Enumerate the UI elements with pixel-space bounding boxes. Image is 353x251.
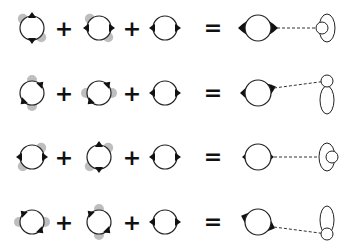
dark-lobe-icon	[149, 218, 155, 226]
equals-sign: =	[204, 211, 222, 233]
dark-lobe-icon	[109, 24, 115, 32]
orbital-term-3	[149, 81, 181, 105]
orbital-circle-icon	[87, 145, 111, 169]
orbital-term-3	[149, 16, 181, 40]
result-orbital	[242, 144, 274, 170]
result-orbital	[240, 80, 276, 106]
plus-sign: +	[123, 83, 141, 105]
dark-lobe-icon	[149, 24, 155, 32]
dark-lobe-icon	[149, 89, 155, 97]
orbital-term-2	[81, 81, 117, 105]
dark-lobe-icon	[28, 12, 36, 18]
orbital-circle-icon	[87, 16, 111, 40]
dark-lobe-icon	[175, 89, 181, 97]
plus-sign: +	[55, 83, 73, 105]
small-sphere-icon	[321, 75, 333, 87]
plus-sign: +	[55, 147, 73, 169]
orbital-term-1	[14, 210, 50, 234]
result-circle-icon	[245, 144, 271, 170]
orbital-term-1	[20, 75, 44, 111]
orbital-term-1	[18, 12, 46, 44]
plus-sign: +	[55, 18, 73, 40]
small-sphere-icon	[326, 151, 338, 163]
equals-sign: =	[204, 146, 222, 168]
small-sphere-icon	[316, 22, 328, 34]
dark-lobe-icon	[149, 153, 155, 161]
orbital-term-3	[149, 145, 181, 169]
dashed-bond-line	[274, 81, 327, 88]
result-circle-icon	[245, 15, 271, 41]
dark-lobe-icon	[83, 24, 89, 32]
dark-lobe-icon	[175, 24, 181, 32]
orbital-circle-icon	[20, 145, 44, 169]
plus-sign: +	[123, 147, 141, 169]
result-circle-icon	[245, 80, 271, 106]
dark-lobe-icon	[95, 167, 103, 173]
orbital-term-2	[83, 14, 115, 42]
orbital-term-1	[16, 143, 48, 171]
orbital-term-2	[85, 141, 113, 173]
dashed-bond-line	[274, 227, 327, 234]
dark-lobe-icon	[28, 38, 36, 44]
dark-lobe-icon	[95, 141, 103, 147]
orbital-term-3	[149, 210, 181, 234]
product-shape	[319, 143, 338, 171]
product-shape	[320, 75, 334, 114]
plus-sign: +	[123, 212, 141, 234]
dark-lobe-icon	[175, 153, 181, 161]
ellipse-lobe-icon	[320, 86, 334, 114]
result-circle-icon	[245, 209, 271, 235]
diagram-canvas: + + = + + = + + = + + =	[0, 0, 353, 251]
orbital-circle-icon	[153, 81, 177, 105]
equals-sign: =	[204, 17, 222, 39]
dark-lobe-icon	[175, 218, 181, 226]
plus-sign: +	[123, 18, 141, 40]
result-orbital	[241, 209, 275, 235]
orbital-circle-icon	[153, 145, 177, 169]
plus-sign: +	[55, 212, 73, 234]
equals-sign: =	[204, 82, 222, 104]
product-shape	[320, 206, 334, 240]
dark-lobe-icon	[42, 153, 48, 161]
product-shape	[316, 14, 335, 42]
orbital-circle-icon	[153, 210, 177, 234]
orbital-circle-icon	[20, 16, 44, 40]
orbital-term-2	[87, 204, 111, 240]
small-sphere-icon	[321, 228, 333, 240]
orbital-circle-icon	[153, 16, 177, 40]
dark-lobe-icon	[16, 153, 22, 161]
orbital-equations-figure	[0, 0, 353, 251]
result-orbital	[238, 15, 278, 41]
